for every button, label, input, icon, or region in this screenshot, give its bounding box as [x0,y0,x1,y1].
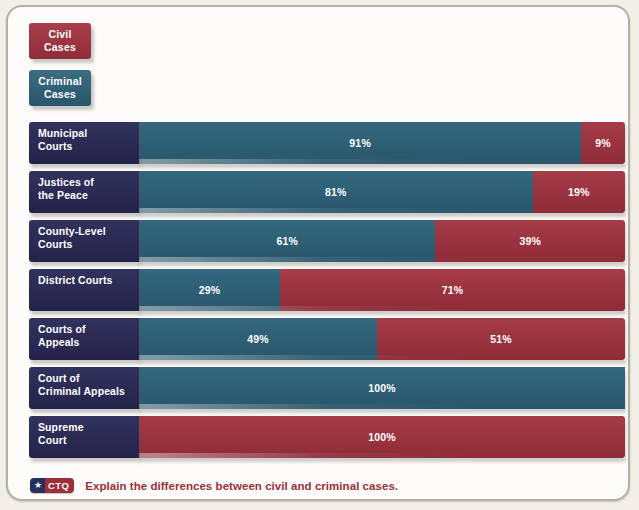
bar-segment-criminal: 81% [139,171,533,213]
bar-segment-value: 9% [595,137,611,149]
bar-segment-value: 29% [199,284,221,296]
bar-row-label-line1: County-Level [38,225,139,238]
bar-row-label: SupremeCourt [29,416,139,458]
bar-row-label: Justices ofthe Peace [29,171,139,213]
bar-segment-criminal: 49% [139,318,377,360]
star-icon: ★ [30,478,45,493]
bar-segment-civil: 9% [581,122,625,164]
bar-segment-value: 81% [325,186,347,198]
bar-segment-civil: 100% [139,416,625,458]
legend-item-civil-cases: Civil Cases [29,23,91,59]
bar-row: SupremeCourt100% [29,416,625,458]
bar-segment-value: 39% [519,235,541,247]
bar-segment-civil: 19% [533,171,625,213]
bar-row-label-line1: Municipal [38,127,139,140]
bar-row: MunicipalCourts91%9% [29,122,625,164]
bar-track: 49%51% [139,318,625,360]
critical-thinking-question-row: ★ CTQ Explain the differences between ci… [30,478,398,493]
bar-segment-value: 71% [442,284,464,296]
bar-row: Courts ofAppeals49%51% [29,318,625,360]
bar-track: 81%19% [139,171,625,213]
bar-segment-value: 51% [490,333,512,345]
bar-row-label-line2: Criminal Appeals [38,385,139,398]
bar-row: District Courts29%71% [29,269,625,311]
bar-row-label-line2: Courts [38,238,139,251]
bar-segment-value: 19% [568,186,590,198]
bar-row-label-line1: Justices of [38,176,139,189]
chart-figure: Civil Cases Criminal Cases MunicipalCour… [0,0,639,510]
ctq-question-text: Explain the differences between civil an… [85,480,398,492]
bar-row-label-line1: District Courts [38,274,139,287]
bar-row-label: Court ofCriminal Appeals [29,367,139,409]
bar-track: 91%9% [139,122,625,164]
legend-item-civil-line2: Cases [36,41,84,54]
bar-segment-criminal: 91% [139,122,581,164]
bar-segment-criminal: 100% [139,367,625,409]
bar-row-label-line2: Appeals [38,336,139,349]
bar-segment-criminal: 29% [139,269,280,311]
bar-track: 29%71% [139,269,625,311]
ctq-badge: ★ CTQ [30,478,74,493]
bar-row-label-line2: Courts [38,140,139,153]
bar-row-label: Courts ofAppeals [29,318,139,360]
bar-row-label-line1: Court of [38,372,139,385]
bar-row-label: District Courts [29,269,139,311]
bar-row-label-line1: Supreme [38,421,139,434]
bar-segment-civil: 51% [377,318,625,360]
bar-row-label-line1: Courts of [38,323,139,336]
bar-row: Court ofCriminal Appeals100% [29,367,625,409]
bar-track: 61%39% [139,220,625,262]
bar-segment-civil: 71% [280,269,625,311]
bar-segment-value: 100% [368,431,396,443]
ctq-badge-label: CTQ [45,478,74,493]
bar-segment-civil: 39% [435,220,625,262]
legend-item-criminal-line2: Cases [36,88,84,101]
bar-segment-value: 91% [349,137,371,149]
legend-item-civil-line1: Civil [36,28,84,41]
legend: Civil Cases Criminal Cases [29,23,91,117]
bar-row-label: County-LevelCourts [29,220,139,262]
bar-row-label-line2: Court [38,434,139,447]
chart-frame: Civil Cases Criminal Cases MunicipalCour… [6,5,630,501]
stacked-bar-chart: MunicipalCourts91%9%Justices ofthe Peace… [29,122,625,465]
legend-item-criminal-line1: Criminal [36,75,84,88]
bar-segment-criminal: 61% [139,220,435,262]
bar-row: County-LevelCourts61%39% [29,220,625,262]
bar-row-label: MunicipalCourts [29,122,139,164]
legend-item-criminal-cases: Criminal Cases [29,70,91,106]
bar-segment-value: 61% [276,235,298,247]
bar-row-label-line2: the Peace [38,189,139,202]
bar-track: 100% [139,367,625,409]
bar-track: 100% [139,416,625,458]
bar-segment-value: 100% [368,382,396,394]
bar-segment-value: 49% [247,333,269,345]
bar-row: Justices ofthe Peace81%19% [29,171,625,213]
